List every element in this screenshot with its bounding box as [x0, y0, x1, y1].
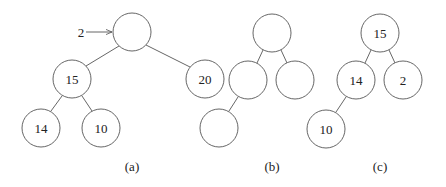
svg-text:20: 20: [199, 72, 212, 87]
caption-a: (a): [125, 159, 139, 174]
tree-node-root: 15: [361, 14, 399, 52]
edge: [389, 50, 395, 63]
tree-node: [276, 61, 314, 99]
edge: [51, 96, 62, 111]
svg-text:15: 15: [374, 26, 387, 41]
edge: [82, 96, 92, 111]
tree-node-root: [113, 13, 151, 51]
caption-c: (c): [373, 159, 387, 174]
caption-b: (b): [264, 159, 279, 174]
tree-node: 15: [53, 60, 91, 98]
svg-text:10: 10: [95, 121, 108, 136]
edge: [281, 50, 287, 63]
diagram-a: 2 15 20 14 10 (a): [22, 13, 224, 174]
edge: [257, 50, 263, 63]
edge: [86, 46, 119, 66]
insert-label: 2: [78, 25, 85, 40]
tree-node-root: [253, 14, 291, 52]
tree-node: [229, 61, 267, 99]
svg-text:15: 15: [66, 72, 79, 87]
tree-figure: 2 15 20 14 10 (a) (b) 15 14 2 10 (c): [0, 0, 446, 187]
svg-text:2: 2: [400, 73, 407, 88]
edge: [229, 97, 238, 111]
edge: [365, 50, 371, 63]
svg-text:10: 10: [320, 122, 333, 137]
tree-node: 14: [22, 109, 60, 147]
tree-node: 10: [307, 110, 345, 148]
svg-text:14: 14: [350, 73, 364, 88]
tree-node: 10: [82, 109, 120, 147]
tree-node: 20: [186, 60, 224, 98]
svg-text:14: 14: [35, 121, 49, 136]
edge: [336, 97, 346, 112]
diagram-c: 15 14 2 10 (c): [307, 14, 422, 174]
edge: [146, 45, 190, 67]
tree-node: 14: [337, 61, 375, 99]
tree-node: 2: [384, 61, 422, 99]
tree-node: [200, 109, 238, 147]
